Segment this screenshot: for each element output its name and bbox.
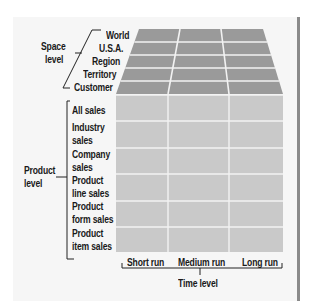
space-item-customer: Customer xyxy=(74,81,113,93)
space-item-world: World xyxy=(106,29,129,41)
product-item-line-1: Product xyxy=(72,174,103,186)
product-item-form-2: form sales xyxy=(72,213,113,225)
product-item-line-2: line sales xyxy=(72,187,109,199)
product-item-all-sales: All sales xyxy=(72,104,105,116)
product-item-form-1: Product xyxy=(72,200,103,212)
space-item-usa: U.S.A. xyxy=(99,42,123,54)
product-item-industry-1: Industry xyxy=(72,121,105,133)
space-level-title: Space xyxy=(41,40,66,52)
time-item-medium-run: Medium run xyxy=(178,256,225,268)
product-item-item-1: Product xyxy=(72,227,103,239)
space-item-territory: Territory xyxy=(83,68,116,80)
space-level-title-2: level xyxy=(45,53,63,65)
product-item-industry-2: sales xyxy=(72,134,93,146)
time-item-short-run: Short run xyxy=(127,256,164,268)
product-item-company-2: sales xyxy=(72,161,93,173)
front-face xyxy=(116,95,283,252)
time-item-long-run: Long run xyxy=(242,256,278,268)
time-level-title: Time level xyxy=(178,277,218,289)
product-level-title: Product xyxy=(24,164,55,176)
product-item-company-1: Company xyxy=(72,148,110,160)
top-face xyxy=(116,29,283,94)
product-item-item-2: item sales xyxy=(72,240,112,252)
space-item-region: Region xyxy=(92,55,120,67)
product-level-title-2: level xyxy=(24,177,42,189)
